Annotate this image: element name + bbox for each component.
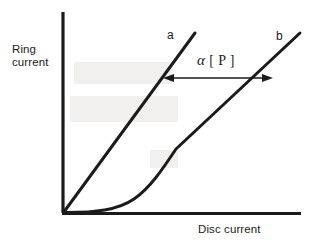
curve-a — [64, 33, 196, 213]
alpha-span-label: α [ P ] — [197, 52, 235, 69]
curve-b — [64, 33, 301, 213]
y-axis-label: Ring current — [12, 43, 68, 69]
curve-b-label: b — [276, 29, 283, 43]
curve-a-label: a — [167, 28, 174, 42]
x-axis-label: Disc current — [198, 223, 261, 236]
figure-container: Ring current Disc current a b α [ P ] — [0, 0, 314, 246]
plot-canvas — [0, 0, 314, 246]
alpha-bracket-text: [ P ] — [205, 53, 235, 68]
